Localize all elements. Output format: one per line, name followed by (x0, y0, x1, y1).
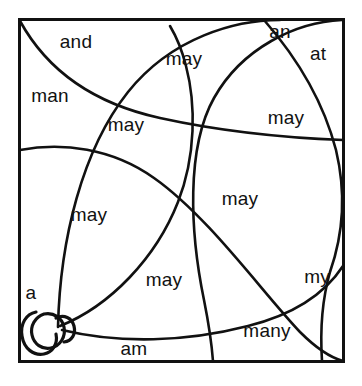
region-label-and: and (60, 32, 92, 51)
diagram-canvas: and an at man may may may may may may my… (0, 0, 362, 386)
region-label-my: my (304, 267, 330, 286)
curve-left-edge-to-bottom-right (20, 147, 343, 361)
curve-knot-along-bottom (62, 266, 343, 339)
region-label-an: an (269, 22, 291, 41)
region-label-may-6: may (146, 270, 183, 289)
region-label-may-3: may (268, 108, 305, 127)
curve-top-right-to-bottom-edge (193, 20, 342, 361)
region-label-may-1: may (166, 49, 203, 68)
region-label-a: a (26, 283, 37, 302)
region-label-many: many (243, 321, 290, 340)
knot-inner-loop (32, 314, 65, 349)
region-label-may-5: may (71, 205, 108, 224)
curve-top-right-down-right-side (264, 20, 342, 361)
region-label-man: man (31, 86, 69, 105)
region-label-am: am (121, 339, 148, 358)
region-label-may-2: may (108, 115, 145, 134)
region-label-may-4: may (222, 189, 259, 208)
region-label-at: at (310, 44, 326, 63)
